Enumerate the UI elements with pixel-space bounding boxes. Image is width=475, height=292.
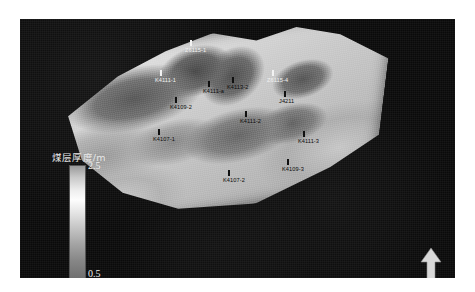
well-pin-icon [175,97,177,103]
colorbar-gradient [69,165,86,278]
well-label: K4111-3 [298,138,319,144]
well-pin-icon [190,40,192,46]
well-label: K4107-2 [223,177,245,183]
well-pin-icon [272,70,274,76]
north-arrow-icon [420,247,442,278]
well-pin-icon [228,170,230,176]
well-pin-icon [208,81,210,87]
well-pin-icon [232,77,234,83]
well-label: Z6115-1 [185,47,206,53]
well-label: K4111-1 [155,77,176,83]
well-pin-icon [158,129,160,135]
well-label: K4107-1 [153,136,175,142]
well-label: K4109-3 [282,166,304,172]
well-pin-icon [160,70,162,76]
well-pin-icon [303,131,305,137]
plot-panel: Z6115-1K4111-1K4111-aK4113-2Z6115-4K4109… [20,19,455,278]
well-pin-icon [245,111,247,117]
colorbar-max-tick: 2.5 [88,160,101,171]
well-label: K4109-2 [170,104,192,110]
figure-canvas: Z6115-1K4111-1K4111-aK4113-2Z6115-4K4109… [0,0,475,292]
well-pin-icon [284,91,286,97]
colorbar-min-tick: 0.5 [88,268,101,278]
well-label: K4113-2 [227,84,248,90]
colorbar-legend: 煤层厚度/m 2.5 0.5 [52,150,128,278]
well-pin-icon [287,159,289,165]
well-label: Z6115-4 [267,77,288,83]
well-label: K4111-a [203,88,224,94]
well-label: J4211 [279,98,294,104]
well-label: K4111-2 [240,118,261,124]
